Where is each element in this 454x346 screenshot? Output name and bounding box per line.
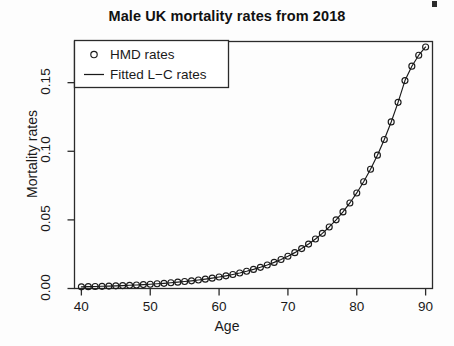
x-axis-ticks — [81, 289, 425, 296]
x-tick-label: 40 — [61, 299, 101, 314]
x-tick-label: 50 — [130, 299, 170, 314]
y-tick-label: 0.05 — [37, 195, 52, 241]
plot-canvas — [0, 0, 454, 346]
y-tick-label: 0.15 — [37, 58, 52, 104]
y-tick-label: 0.10 — [37, 127, 52, 173]
scan-artifact — [432, 1, 437, 7]
y-axis-ticks — [68, 83, 75, 289]
chart-figure: Male UK mortality rates from 2018 Mortal… — [0, 0, 454, 346]
legend-label-fitted-lc-rates: Fitted L−C rates — [110, 67, 206, 82]
x-tick-label: 70 — [268, 299, 308, 314]
x-tick-label: 80 — [337, 299, 377, 314]
x-tick-label: 90 — [406, 299, 446, 314]
legend-label-hmd-rates: HMD rates — [110, 47, 175, 62]
y-tick-label: 0.00 — [37, 264, 52, 310]
x-tick-label: 60 — [199, 299, 239, 314]
x-axis-label: Age — [0, 318, 454, 334]
